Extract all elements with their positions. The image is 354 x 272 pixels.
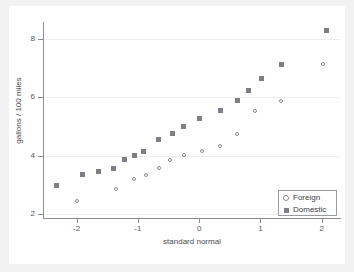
- gridline-y-6: [43, 97, 340, 98]
- data-point-foreign: [200, 149, 204, 153]
- data-point-foreign: [235, 132, 239, 136]
- y-tick-label-4: 4: [21, 152, 35, 160]
- data-point-foreign: [218, 144, 222, 148]
- data-point-foreign: [253, 109, 257, 113]
- x-tick-mark--2: [77, 219, 78, 223]
- y-axis-line: [43, 22, 44, 219]
- data-point-domestic: [324, 28, 329, 33]
- gridline-y-8: [43, 39, 340, 40]
- data-point-foreign: [157, 166, 161, 170]
- y-tick-label-8: 8: [21, 35, 35, 43]
- plot-region: [43, 22, 340, 218]
- open-circle-key-icon: [279, 195, 293, 201]
- data-point-domestic: [111, 166, 116, 171]
- x-tick-mark-2: [322, 219, 323, 223]
- x-tick-mark-0: [199, 219, 200, 223]
- data-point-domestic: [197, 116, 202, 121]
- x-tick-label--2: -2: [67, 225, 87, 233]
- x-tick-label-0: 0: [189, 225, 209, 233]
- data-point-domestic: [122, 157, 127, 162]
- x-tick-mark-1: [260, 219, 261, 223]
- data-point-domestic: [96, 169, 101, 174]
- y-tick-mark-2: [38, 214, 43, 215]
- legend-entry-foreign: Foreign: [279, 192, 336, 204]
- data-point-domestic: [132, 153, 137, 158]
- y-tick-label-6: 6: [21, 93, 35, 101]
- filled-square-key-icon: [279, 208, 293, 213]
- data-point-domestic: [218, 108, 223, 113]
- legend-box: Foreign Domestic: [278, 190, 337, 216]
- data-point-foreign: [182, 153, 186, 157]
- data-point-domestic: [141, 149, 146, 154]
- x-tick-mark--1: [138, 219, 139, 223]
- legend-entry-domestic: Domestic: [279, 204, 336, 216]
- x-tick-label-2: 2: [312, 225, 332, 233]
- data-point-foreign: [279, 99, 283, 103]
- data-point-domestic: [170, 131, 175, 136]
- data-point-domestic: [235, 98, 240, 103]
- data-point-foreign: [144, 173, 148, 177]
- data-point-domestic: [259, 76, 264, 81]
- y-tick-mark-8: [38, 39, 43, 40]
- data-point-domestic: [279, 62, 284, 67]
- data-point-foreign: [132, 177, 136, 181]
- data-point-foreign: [114, 187, 118, 191]
- data-point-domestic: [246, 88, 251, 93]
- data-point-domestic: [156, 137, 161, 142]
- data-point-foreign: [75, 199, 79, 203]
- data-point-domestic: [54, 183, 59, 188]
- gridline-y-4: [43, 156, 340, 157]
- scatter-plot-figure: 2468 -2-1012 gallons / 100 miles standar…: [0, 0, 354, 272]
- y-tick-label-2: 2: [21, 210, 35, 218]
- data-point-domestic: [181, 124, 186, 129]
- x-tick-label--1: -1: [128, 225, 148, 233]
- data-point-domestic: [80, 172, 85, 177]
- x-axis-title: standard normal: [43, 237, 341, 246]
- data-point-foreign: [168, 158, 172, 162]
- legend-label-foreign: Foreign: [293, 194, 320, 202]
- y-tick-mark-6: [38, 97, 43, 98]
- y-axis-title: gallons / 100 miles: [14, 51, 23, 171]
- legend-label-domestic: Domestic: [293, 206, 326, 214]
- x-axis-line: [43, 218, 341, 219]
- data-point-foreign: [321, 62, 325, 66]
- x-tick-label-1: 1: [250, 225, 270, 233]
- y-tick-mark-4: [38, 156, 43, 157]
